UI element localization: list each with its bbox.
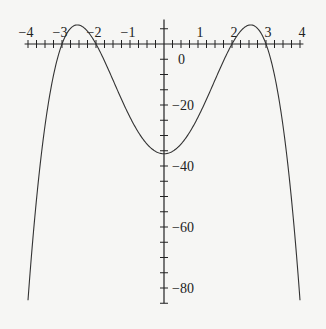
y-tick-label: 0 bbox=[178, 52, 185, 67]
axes bbox=[25, 20, 304, 304]
x-tick-label: 4 bbox=[299, 25, 306, 40]
tick-labels: −4−3−2−112340−20−40−60−80 bbox=[19, 25, 306, 296]
y-tick-label: −60 bbox=[172, 220, 194, 235]
x-tick-label: −4 bbox=[19, 25, 34, 40]
x-tick-label: 2 bbox=[231, 25, 238, 40]
x-tick-label: −1 bbox=[121, 25, 136, 40]
y-tick-label: −40 bbox=[172, 159, 194, 174]
y-tick-label: −20 bbox=[172, 98, 194, 113]
function-plot: −4−3−2−112340−20−40−60−80 bbox=[0, 0, 326, 329]
x-tick-label: 1 bbox=[197, 25, 204, 40]
x-tick-label: 3 bbox=[265, 25, 272, 40]
y-tick-label: −80 bbox=[172, 281, 194, 296]
x-tick-label: −3 bbox=[53, 25, 68, 40]
